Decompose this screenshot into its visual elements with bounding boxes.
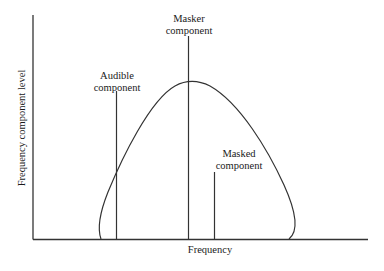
masker-label-line1: Masker: [158, 13, 220, 25]
x-axis-label: Frequency: [170, 244, 250, 256]
audible-component-label: Audible component: [86, 70, 148, 94]
masking-diagram: Audible component Masker component Maske…: [0, 0, 384, 271]
y-axis-label: Frequency component level: [16, 70, 27, 187]
masked-label-line2: component: [208, 160, 270, 172]
diagram-canvas: [0, 0, 384, 271]
audible-label-line1: Audible: [86, 70, 148, 82]
masked-label-line1: Masked: [208, 148, 270, 160]
audible-label-line2: component: [86, 82, 148, 94]
masker-label-line2: component: [158, 25, 220, 37]
masked-component-label: Masked component: [208, 148, 270, 172]
masker-component-label: Masker component: [158, 13, 220, 37]
